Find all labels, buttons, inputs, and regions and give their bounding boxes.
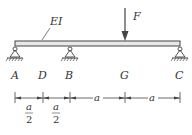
support-b <box>61 47 78 61</box>
beam-diagram: EI F A D B G C <box>0 0 192 135</box>
point-label-g: G <box>120 69 129 82</box>
support-a <box>6 47 23 61</box>
ei-label: EI <box>49 15 63 28</box>
point-label-a: A <box>10 69 19 82</box>
dimension-labels: a 2 a 2 a a <box>25 92 155 125</box>
dim-bg-label: a <box>94 92 100 103</box>
beam <box>15 41 180 46</box>
dim-db-denominator: 2 <box>53 114 59 125</box>
dim-ad-denominator: 2 <box>26 114 32 125</box>
point-label-b: B <box>64 69 73 82</box>
ei-label-group: EI <box>42 15 63 40</box>
dim-gc-label: a <box>149 92 155 103</box>
support-c <box>171 47 188 61</box>
force-arrow: F <box>122 8 142 41</box>
force-label: F <box>132 10 141 23</box>
dim-db-numerator: a <box>53 101 59 112</box>
point-label-c: C <box>175 69 184 82</box>
point-label-d: D <box>37 69 47 82</box>
point-labels: A D B G C <box>10 69 184 82</box>
dim-ad-numerator: a <box>26 101 32 112</box>
